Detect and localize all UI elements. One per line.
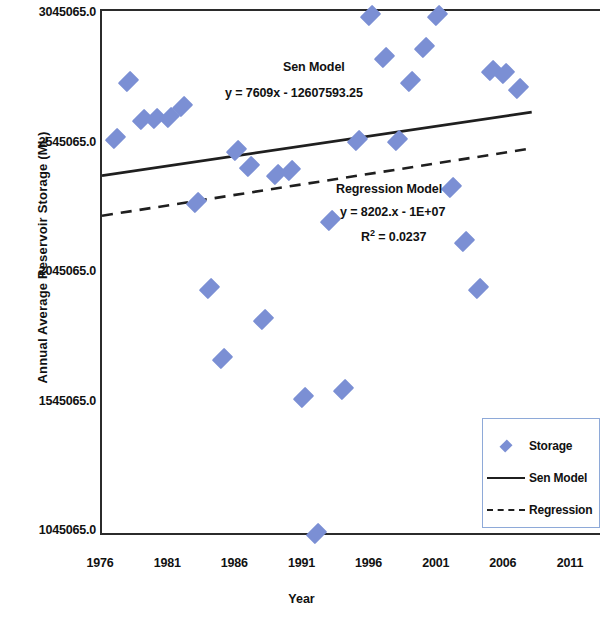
- legend-item-regression[interactable]: Regression: [483, 495, 601, 525]
- x-axis-tick-7: 2011: [535, 556, 603, 570]
- diamond-marker-icon: [483, 442, 529, 450]
- annotation-regression-r-squared: R2 = 0.0237: [361, 228, 426, 244]
- annotation-sen-model-equation: y = 7609x - 12607593.25: [225, 86, 363, 100]
- r-squared-value: = 0.0237: [375, 230, 427, 244]
- r-squared-prefix: R: [361, 230, 370, 244]
- chart-container: Annual Average Reservoir Storage (ML) 10…: [0, 0, 603, 620]
- x-axis-tick-0: 1976: [65, 556, 135, 570]
- x-axis-tick-4: 1996: [334, 556, 404, 570]
- legend-item-storage[interactable]: Storage: [483, 431, 601, 461]
- legend-label-sen-model: Sen Model: [529, 471, 587, 485]
- x-axis-tick-3: 1991: [266, 556, 336, 570]
- solid-line-icon: [483, 477, 529, 479]
- legend-label-regression: Regression: [529, 503, 592, 517]
- legend-label-storage: Storage: [529, 439, 572, 453]
- x-axis-tick-6: 2006: [468, 556, 538, 570]
- x-axis-tick-2: 1986: [199, 556, 269, 570]
- x-axis-tick-5: 2001: [401, 556, 471, 570]
- annotation-regression-title: Regression Model: [336, 182, 442, 196]
- annotation-regression-equation: y = 8202.x - 1E+07: [340, 205, 445, 219]
- dashed-line-icon: [483, 509, 529, 511]
- annotation-sen-model-title: Sen Model: [283, 60, 345, 74]
- x-axis-tick-1: 1981: [132, 556, 202, 570]
- x-axis-title: Year: [0, 592, 603, 606]
- legend-item-sen-model[interactable]: Sen Model: [483, 463, 601, 493]
- chart-legend: Storage Sen Model Regression: [482, 418, 600, 528]
